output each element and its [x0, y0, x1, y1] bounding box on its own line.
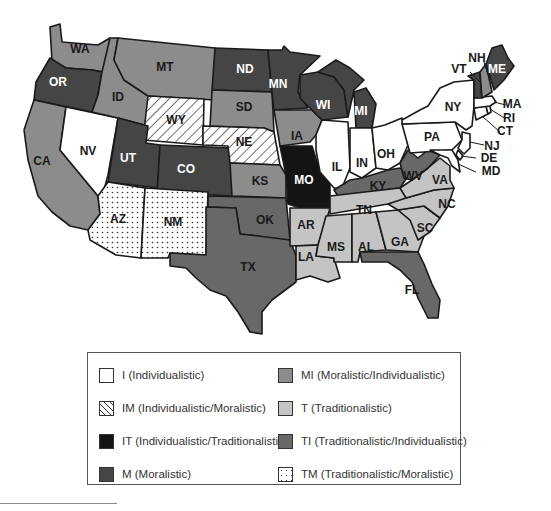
legend-label: TI (Traditionalistic/Individualistic): [301, 435, 467, 447]
legend-label: M (Moralistic): [122, 468, 191, 480]
state-label-CA: CA: [33, 154, 51, 168]
state-label-PA: PA: [424, 130, 440, 144]
state-label-GA: GA: [391, 235, 409, 249]
legend-item-TI: TI (Traditionalistic/Individualistic): [278, 432, 467, 450]
legend-label: I (Individualistic): [122, 369, 204, 381]
state-label-VT: VT: [451, 62, 467, 76]
swatch-moralistic-individualistic: [278, 368, 293, 383]
legend-label: T (Traditionalistic): [301, 402, 392, 414]
state-FL: [360, 252, 440, 318]
state-label-NE: NE: [236, 135, 253, 149]
state-label-MS: MS: [327, 240, 345, 254]
state-label-NH: NH: [468, 51, 485, 65]
state-label-CO: CO: [177, 162, 195, 176]
state-label-NV: NV: [80, 144, 97, 158]
state-label-IL: IL: [332, 160, 343, 174]
state-label-RI: RI: [503, 111, 515, 125]
state-label-MN: MN: [269, 77, 288, 91]
legend-item-I: I (Individualistic): [99, 366, 204, 384]
legend-label: MI (Moralistic/Individualistic): [301, 369, 445, 381]
state-label-MA: MA: [503, 97, 522, 111]
state-label-TX: TX: [240, 260, 255, 274]
state-label-IN: IN: [356, 156, 368, 170]
state-label-NC: NC: [438, 197, 456, 211]
state-label-OH: OH: [377, 147, 395, 161]
state-label-AR: AR: [297, 218, 315, 232]
state-label-WV: WV: [403, 169, 422, 183]
state-label-AZ: AZ: [110, 212, 126, 226]
state-label-NY: NY: [445, 100, 462, 114]
state-label-IA: IA: [291, 129, 303, 143]
state-label-ME: ME: [488, 62, 506, 76]
state-label-WY: WY: [166, 113, 185, 127]
footnote-rule: [0, 503, 117, 504]
state-label-NM: NM: [164, 215, 183, 229]
state-label-OK: OK: [256, 213, 274, 227]
us-political-culture-map: WAORCANVIDMTWYUTCOAZNMNDSDNEKSOKTXMNIAMO…: [0, 0, 551, 345]
state-label-ID: ID: [112, 90, 124, 104]
legend-label: IM (Individualistic/Moralistic): [122, 402, 266, 414]
legend-item-IT: IT (Individualistic/Traditionalistic): [99, 432, 288, 450]
legend-item-M: M (Moralistic): [99, 465, 191, 483]
state-label-KY: KY: [370, 179, 387, 193]
state-label-VA: VA: [432, 173, 448, 187]
state-label-MO: MO: [294, 173, 313, 187]
swatch-moralistic: [99, 467, 114, 482]
swatch-traditionalistic-individualistic: [278, 434, 293, 449]
legend-label: TM (Traditionalistic/Moralistic): [301, 468, 453, 480]
swatch-individualistic-moralistic: [99, 401, 114, 416]
legend-item-TM: TM (Traditionalistic/Moralistic): [278, 465, 453, 483]
state-label-KS: KS: [252, 174, 269, 188]
state-label-OR: OR: [49, 75, 67, 89]
legend-item-IM: IM (Individualistic/Moralistic): [99, 399, 266, 417]
state-label-TN: TN: [356, 203, 372, 217]
state-label-WA: WA: [70, 42, 90, 56]
swatch-individualistic: [99, 368, 114, 383]
legend-item-MI: MI (Moralistic/Individualistic): [278, 366, 445, 384]
state-label-MI: MI: [354, 104, 367, 118]
state-NY: [402, 80, 474, 130]
state-label-MT: MT: [156, 60, 174, 74]
swatch-traditionalistic: [278, 401, 293, 416]
state-label-SD: SD: [236, 100, 253, 114]
state-label-LA: LA: [298, 250, 314, 264]
state-label-DE: DE: [481, 151, 498, 165]
legend-label: IT (Individualistic/Traditionalistic): [122, 435, 288, 447]
swatch-traditionalistic-moralistic: [278, 467, 293, 482]
state-label-FL: FL: [405, 283, 420, 297]
state-label-WI: WI: [316, 98, 331, 112]
swatch-individualistic-traditionalistic: [99, 434, 114, 449]
state-label-AL: AL: [358, 240, 374, 254]
state-label-UT: UT: [120, 151, 137, 165]
state-label-ND: ND: [236, 62, 254, 76]
state-label-MD: MD: [482, 164, 501, 178]
legend-item-T: T (Traditionalistic): [278, 399, 392, 417]
legend: I (Individualistic) IM (Individualistic/…: [87, 352, 461, 485]
state-label-CT: CT: [497, 124, 514, 138]
state-label-SC: SC: [417, 221, 434, 235]
